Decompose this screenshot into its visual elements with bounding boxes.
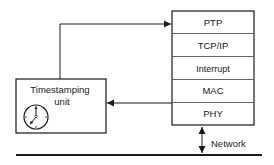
ptp-timestamping-diagram: PTP TCP/IP Interrupt MAC PHY Timestampin… — [0, 0, 274, 165]
timestamping-unit-label-2: unit — [54, 96, 70, 107]
timestamping-unit: Timestamping unit — [16, 79, 106, 133]
layer-mac: MAC — [202, 85, 223, 96]
timestamp-to-ptp-arrow — [60, 24, 171, 79]
layer-phy: PHY — [203, 108, 223, 119]
timestamping-unit-label: Timestamping — [30, 84, 89, 95]
layer-ptp: PTP — [204, 17, 222, 28]
clock-icon — [24, 105, 48, 129]
layer-interrupt: Interrupt — [196, 64, 230, 74]
network-label: Network — [211, 138, 246, 149]
layer-tcpip: TCP/IP — [198, 40, 229, 51]
protocol-stack: PTP TCP/IP Interrupt MAC PHY — [172, 11, 254, 125]
